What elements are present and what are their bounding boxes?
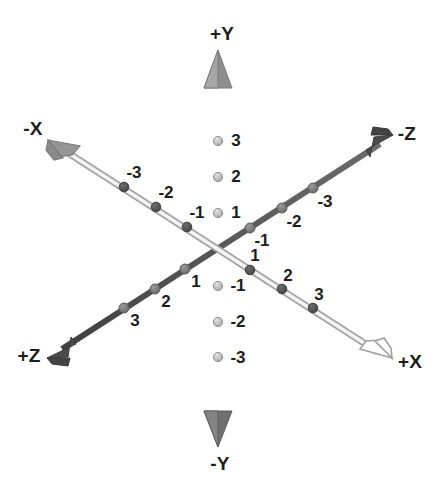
z-axis-tick-dot-2 [150, 284, 160, 294]
y-axis-tick-dot-1 [213, 208, 222, 217]
y-axis-tick-dot-2 [213, 172, 222, 181]
x-axis-tick-label-2: 2 [283, 267, 292, 284]
x-axis-positive-label: +X [398, 352, 422, 371]
z-axis-tick-label-3: 3 [130, 312, 139, 329]
x-axis-tick-label-3: 3 [314, 286, 323, 303]
z-axis-tick-label--2: -2 [286, 213, 301, 230]
z-axis-negative-label: -Z [398, 124, 416, 143]
coordinate-axes-diagram: 321-1-2-3+Y-Y-3-2-1123+X-X-1-2-3123+Z-Z [0, 0, 440, 488]
z-axis-tick-dot-1 [180, 264, 190, 274]
z-axis-tick-dot-3 [119, 303, 129, 313]
y-axis-tick-dot--1 [213, 281, 222, 290]
x-axis-tick-dot--3 [119, 182, 129, 192]
x-axis-negative-label: -X [23, 119, 42, 138]
y-axis-positive-label: +Y [210, 24, 234, 43]
z-axis-tick-label-1: 1 [191, 273, 200, 290]
z-axis-positive-label: +Z [17, 346, 40, 365]
z-axis-tick-label--3: -3 [317, 193, 332, 210]
axes-graphic [0, 0, 440, 488]
x-axis-tick-dot-1 [245, 265, 255, 275]
y-axis-negative-label: -Y [210, 454, 229, 473]
x-axis-tick-dot-2 [277, 284, 287, 294]
y-axis-tick-dot--3 [213, 352, 222, 361]
x-axis-tick-dot--1 [182, 222, 192, 232]
z-axis-tick-label-2: 2 [161, 293, 170, 310]
x-axis-tick-dot-3 [308, 303, 318, 313]
x-axis-tick-label--1: -1 [189, 204, 204, 221]
y-axis-tick-label-1: 1 [231, 204, 240, 221]
y-axis-tick-label--3: -3 [230, 349, 245, 366]
y-axis-tick-label--1: -1 [230, 277, 245, 294]
y-axis-tick-label--2: -2 [230, 313, 245, 330]
x-axis-tick-dot--2 [151, 202, 161, 212]
y-axis-tick-label-2: 2 [231, 168, 240, 185]
z-axis-tick-label--1: -1 [254, 232, 269, 249]
x-axis-tick-label--3: -3 [126, 164, 141, 181]
y-axis-tick-dot--2 [213, 317, 222, 326]
y-axis-tick-label-3: 3 [231, 132, 240, 149]
y-axis-line [204, 50, 232, 447]
x-axis-tick-label--2: -2 [158, 184, 173, 201]
y-axis-tick-dot-3 [213, 136, 222, 145]
